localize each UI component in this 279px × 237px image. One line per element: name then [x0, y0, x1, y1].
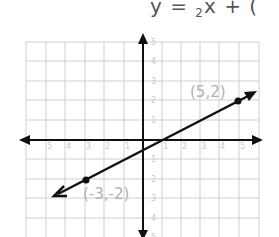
point-5-2 — [235, 98, 242, 105]
svg-text:2: 2 — [151, 96, 156, 105]
coordinate-plane: 5 4 3 2 1 1 2 3 4 5 5 4 3 2 1 1 2 3 4 5 … — [0, 0, 279, 237]
x-axis — [19, 135, 263, 145]
svg-text:3: 3 — [201, 142, 206, 151]
svg-text:3: 3 — [151, 77, 156, 86]
svg-text:2: 2 — [182, 142, 187, 151]
point-neg3-neg2 — [83, 177, 90, 184]
svg-text:5: 5 — [240, 142, 245, 151]
point-label-neg3-neg2: (-3,-2) — [83, 185, 129, 203]
svg-text:3: 3 — [151, 194, 156, 203]
svg-text:4: 4 — [151, 57, 156, 66]
y-tick-labels: 5 4 3 2 1 1 2 3 4 5 — [151, 38, 156, 237]
svg-text:5: 5 — [151, 38, 156, 47]
svg-text:5: 5 — [47, 142, 52, 151]
svg-text:2: 2 — [105, 142, 110, 151]
svg-text:4: 4 — [66, 142, 71, 151]
y-axis — [138, 33, 148, 237]
svg-text:1: 1 — [151, 116, 156, 125]
svg-text:5: 5 — [151, 233, 156, 237]
svg-text:1: 1 — [125, 142, 130, 151]
svg-text:2: 2 — [151, 175, 156, 184]
svg-text:3: 3 — [86, 142, 91, 151]
point-label-5-2: (5,2) — [190, 83, 226, 101]
svg-text:1: 1 — [163, 142, 168, 151]
svg-text:4: 4 — [151, 214, 156, 223]
svg-text:1: 1 — [151, 155, 156, 164]
svg-text:4: 4 — [220, 142, 225, 151]
